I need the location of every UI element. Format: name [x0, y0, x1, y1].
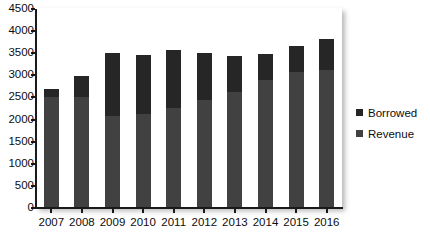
x-tick — [203, 209, 205, 213]
bar-2013[interactable] — [227, 56, 242, 208]
legend-item-borrowed[interactable]: Borrowed — [356, 104, 430, 121]
x-tick — [142, 209, 144, 213]
bar-segment-revenue — [289, 72, 304, 208]
bar-segment-revenue — [319, 70, 334, 208]
bar-2012[interactable] — [197, 53, 212, 208]
legend-label-revenue: Revenue — [368, 128, 414, 140]
x-tick — [295, 209, 297, 213]
bar-2009[interactable] — [105, 53, 120, 208]
bar-2011[interactable] — [166, 50, 181, 208]
bar-segment-borrowed — [166, 50, 181, 109]
x-tick — [265, 209, 267, 213]
bar-segment-revenue — [227, 92, 242, 208]
y-tick-label: 2500 — [0, 91, 34, 102]
bar-segment-borrowed — [197, 53, 212, 100]
bar-segment-borrowed — [136, 55, 151, 114]
x-tick — [173, 209, 175, 213]
y-tick-label: 4500 — [0, 3, 34, 14]
bar-segment-borrowed — [74, 76, 89, 97]
x-tick-label: 2016 — [309, 216, 345, 229]
bar-segment-revenue — [166, 108, 181, 208]
bar-segment-revenue — [197, 100, 212, 208]
bar-segment-borrowed — [289, 46, 304, 73]
y-axis-line — [35, 9, 37, 209]
y-tick-label: 0 — [0, 202, 34, 213]
bar-segment-borrowed — [227, 56, 242, 92]
x-tick — [112, 209, 114, 213]
bar-2016[interactable] — [319, 39, 334, 208]
bar-2014[interactable] — [258, 54, 273, 208]
bar-segment-revenue — [258, 80, 273, 208]
chart-legend: Borrowed Revenue — [356, 104, 430, 146]
bar-2008[interactable] — [74, 76, 89, 208]
x-tick — [50, 209, 52, 213]
bar-segment-borrowed — [319, 39, 334, 70]
bar-segment-revenue — [105, 116, 120, 208]
bar-segment-revenue — [136, 114, 151, 208]
y-tick-label: 1500 — [0, 136, 34, 147]
legend-swatch-borrowed-icon — [356, 109, 363, 116]
x-tick — [81, 209, 83, 213]
y-tick-label: 3000 — [0, 69, 34, 80]
y-tick-label: 3500 — [0, 47, 34, 58]
x-tick — [234, 209, 236, 213]
bar-2010[interactable] — [136, 55, 151, 208]
legend-label-borrowed: Borrowed — [368, 107, 417, 119]
bar-2015[interactable] — [289, 46, 304, 208]
bar-segment-borrowed — [258, 54, 273, 80]
y-tick-label: 500 — [0, 180, 34, 191]
x-tick — [326, 209, 328, 213]
legend-swatch-revenue-icon — [356, 130, 363, 137]
stacked-bar-chart: 050010001500200025003000350040004500 200… — [0, 0, 430, 245]
y-tick-label: 1000 — [0, 158, 34, 169]
y-tick-label: 2000 — [0, 114, 34, 125]
bar-segment-borrowed — [105, 53, 120, 116]
bar-segment-revenue — [74, 97, 89, 208]
bar-segment-borrowed — [44, 89, 59, 98]
bar-segment-revenue — [44, 97, 59, 208]
y-tick-label: 4000 — [0, 25, 34, 36]
bar-2007[interactable] — [44, 89, 59, 208]
legend-item-revenue[interactable]: Revenue — [356, 125, 430, 142]
